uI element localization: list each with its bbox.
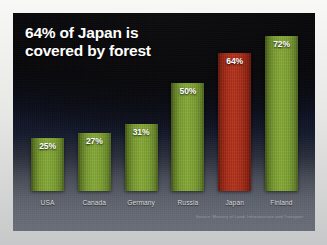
bar-category-label: Russia [165, 199, 210, 206]
bar-category-label: Finland [259, 199, 304, 206]
presentation-slide: 64% of Japan is covered by forest 25%USA… [13, 13, 315, 231]
bar-value-label: 27% [78, 136, 111, 146]
bar-canada[interactable]: 27% [78, 133, 111, 191]
slide-title: 64% of Japan is covered by forest [25, 24, 225, 60]
bar-finland[interactable]: 72% [265, 36, 298, 191]
bar-germany[interactable]: 31% [125, 124, 158, 191]
bar-category-label: Germany [119, 199, 164, 206]
bar-value-label: 25% [31, 141, 64, 151]
bar-category-label: USA [25, 199, 70, 206]
bar-japan[interactable]: 64% [218, 53, 251, 191]
bar-usa[interactable]: 25% [31, 138, 64, 191]
source-note: Source: Ministry of Land, Infrastructure… [196, 214, 303, 219]
bar-slot: 72%Finland [265, 19, 298, 191]
slide-photo-frame: 64% of Japan is covered by forest 25%USA… [0, 0, 327, 245]
bar-value-label: 50% [171, 86, 204, 96]
bar-category-label: Japan [212, 199, 257, 206]
bar-value-label: 31% [125, 127, 158, 137]
bar-value-label: 72% [265, 39, 298, 49]
bar-russia[interactable]: 50% [171, 83, 204, 191]
bar-category-label: Canada [72, 199, 117, 206]
